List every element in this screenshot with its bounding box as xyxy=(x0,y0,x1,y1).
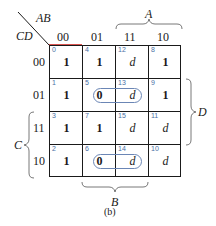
cell-value: 1 xyxy=(50,56,83,68)
cell-index: 9 xyxy=(151,79,155,86)
cell-index: 1 xyxy=(52,79,56,86)
row-variable-label: CD xyxy=(16,30,33,42)
figure-caption: (b) xyxy=(104,207,116,217)
cell-index: 4 xyxy=(85,46,89,53)
cell-value: 1 xyxy=(83,122,116,134)
cell-index: 0 xyxy=(52,46,56,53)
col-label-11: 11 xyxy=(124,31,136,43)
cell-index: 5 xyxy=(85,79,89,86)
cell-value: d xyxy=(116,122,149,134)
kmap-cell-10: 10 d xyxy=(149,145,182,178)
kmap-cell-7: 7 1 xyxy=(83,112,116,145)
kmap-cell-11: 11 d xyxy=(149,112,182,145)
cell-index: 11 xyxy=(151,112,158,119)
col-label-01: 01 xyxy=(91,31,103,43)
kmap-cell-12: 12 d xyxy=(116,46,149,79)
cell-index: 14 xyxy=(118,145,126,152)
cell-value: 1 xyxy=(50,89,83,101)
cell-value: d xyxy=(149,155,182,167)
cell-index: 6 xyxy=(85,145,89,152)
kmap-cell-0: 0 1 xyxy=(50,46,83,79)
cell-index: 15 xyxy=(118,112,126,119)
brace-label-a: A xyxy=(145,8,152,20)
cell-value: 1 xyxy=(149,56,182,68)
cell-index: 7 xyxy=(85,112,89,119)
kmap-cell-1: 1 1 xyxy=(50,79,83,112)
row-label-01: 01 xyxy=(33,89,45,101)
col-label-10: 10 xyxy=(157,31,169,43)
kmap-grid: 0 1 4 1 12 d 8 1 1 1 5 0 13 d 9 1 3 1 7 … xyxy=(49,45,181,177)
cell-index: 13 xyxy=(118,79,126,86)
cell-index: 12 xyxy=(118,46,126,53)
kmap-cell-9: 9 1 xyxy=(149,79,182,112)
col-label-00: 00 xyxy=(57,31,69,43)
group-loop-6-14 xyxy=(93,154,142,169)
cell-index: 2 xyxy=(52,145,56,152)
brace-label-d: D xyxy=(198,106,207,118)
cell-index: 3 xyxy=(52,112,56,119)
cell-value: 1 xyxy=(149,89,182,101)
kmap-cell-4: 4 1 xyxy=(83,46,116,79)
cell-index: 8 xyxy=(151,46,155,53)
cell-value: 1 xyxy=(50,122,83,134)
brace-label-c: C xyxy=(14,139,22,151)
kmap-cell-8: 8 1 xyxy=(149,46,182,79)
row-label-00: 00 xyxy=(33,56,45,68)
kmap-cell-3: 3 1 xyxy=(50,112,83,145)
cell-index: 10 xyxy=(151,145,159,152)
row-label-11: 11 xyxy=(33,122,45,134)
cell-value: 1 xyxy=(83,56,116,68)
group-loop-5-13 xyxy=(93,88,142,103)
cell-value: 1 xyxy=(50,155,83,167)
cell-value: d xyxy=(149,122,182,134)
kmap-cell-15: 15 d xyxy=(116,112,149,145)
row-label-10: 10 xyxy=(33,155,45,167)
kmap-cell-2: 2 1 xyxy=(50,145,83,178)
col-variable-label: AB xyxy=(36,12,51,24)
cell-value: d xyxy=(116,56,149,68)
